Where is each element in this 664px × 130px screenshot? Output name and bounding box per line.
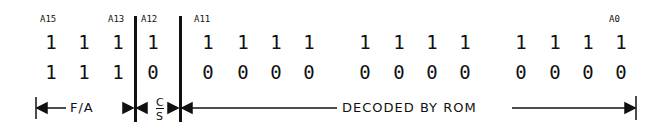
field-arrows <box>0 0 664 130</box>
